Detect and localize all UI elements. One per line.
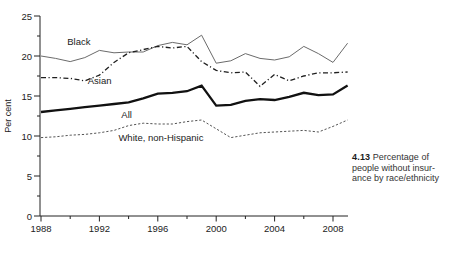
series-line-all xyxy=(41,86,348,112)
series-label-all: All xyxy=(121,109,132,120)
y-tick-label: 5 xyxy=(27,171,32,182)
x-tick-label: 1996 xyxy=(147,223,168,234)
figure-caption: 4.13 Percentage of people without insur-… xyxy=(352,152,447,184)
x-tick-label: 2008 xyxy=(322,223,343,234)
y-tick-label: 15 xyxy=(21,91,32,102)
y-tick-label: 20 xyxy=(21,51,32,62)
caption-text-1: Percentage of xyxy=(373,152,429,162)
series-label-white-non-hispanic: White, non-Hispanic xyxy=(118,132,203,143)
caption-text-2: people without insur- xyxy=(352,163,447,174)
insurance-line-chart: 0510152025198819921996200020042008Per ce… xyxy=(0,0,451,253)
x-tick-label: 2004 xyxy=(264,223,285,234)
y-tick-label: 25 xyxy=(21,11,32,22)
figure-4-13: 0510152025198819921996200020042008Per ce… xyxy=(0,0,451,253)
figure-number: 4.13 xyxy=(352,152,370,162)
series-label-asian: Asian xyxy=(88,75,112,86)
x-tick-label: 2000 xyxy=(206,223,227,234)
x-tick-label: 1988 xyxy=(30,223,51,234)
series-label-black: Black xyxy=(67,36,90,47)
caption-text-3: ance by race/ethnicity xyxy=(352,173,447,184)
y-axis-title: Per cent xyxy=(3,99,13,133)
caption-line-1: 4.13 Percentage of xyxy=(352,152,447,163)
y-tick-label: 0 xyxy=(27,211,32,222)
y-tick-label: 10 xyxy=(21,131,32,142)
x-tick-label: 1992 xyxy=(89,223,110,234)
